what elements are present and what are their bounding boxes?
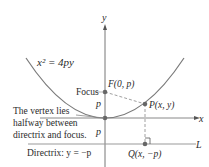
equation-label: x² = 4py [36, 56, 74, 68]
point-q-label: Q(x, −p) [128, 149, 161, 160]
point-p-label: P(x, y) [148, 100, 174, 111]
x-axis-label: x [198, 113, 204, 124]
y-axis-arrow-icon [103, 24, 107, 30]
focus-to-p-dashed [105, 92, 145, 104]
directrix-label: Directrix: y = −p [27, 148, 92, 158]
directrix-l-label: L [195, 139, 202, 150]
p-lower-label: p [95, 126, 101, 137]
y-axis-label: y [101, 12, 107, 23]
p-upper-label: p [95, 98, 101, 109]
focus-label: Focus [76, 87, 99, 97]
vertex-note-line-2: halfway between [13, 118, 78, 128]
point-p [143, 102, 148, 107]
parabola-diagram: x² = 4py y x Focus F(0, p) P(x, y) Q(x, … [0, 0, 209, 167]
vertex-note-line-3: directrix and focus. [13, 130, 87, 140]
focus-point-label: F(0, p) [107, 79, 134, 90]
point-q [143, 142, 148, 147]
vertex-note-line-1: The vertex lies [13, 106, 70, 116]
